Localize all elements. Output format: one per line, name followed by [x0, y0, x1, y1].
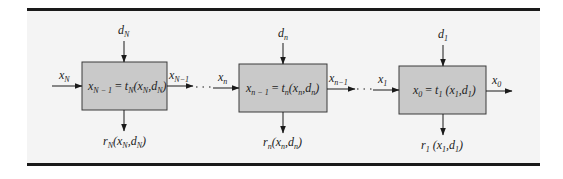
stage-n-decision-label: dn — [278, 26, 288, 42]
stage-diagram: xN − 1 = tN(xN,dN) xN dN xN−1 rN(xN,dN) … — [0, 0, 563, 179]
stage-1-return-label: r1 (x1,d1) — [421, 138, 463, 154]
stage-n: xn − 1 = tn(xn,dn) xn dn xn−1 rn(xn,dn) — [213, 26, 355, 151]
stage-n-output-label: xn−1 — [328, 71, 348, 87]
stage-N-input-label: xN — [58, 68, 70, 84]
stage-N-decision-label: dN — [118, 23, 130, 39]
stage-n-input-label: xn — [217, 70, 227, 86]
stage-N-return-label: rN(xN,dN) — [103, 134, 146, 150]
stage-1-input-label: x1 — [377, 72, 387, 88]
stage-N-output-label: xN−1 — [168, 68, 189, 84]
stage-1-output-label: x0 — [491, 73, 501, 89]
stage-n-return-label: rn(xn,dn) — [263, 135, 302, 151]
stage-1: x0 = t1 (x1,d1) x1 d1 x0 r1 (x1,d1) — [373, 27, 512, 154]
stage-1-decision-label: d1 — [438, 27, 448, 43]
stage-1-equation: x0 = t1 (x1,d1) — [412, 83, 476, 99]
stage-N: xN − 1 = tN(xN,dN) xN dN xN−1 rN(xN,dN) — [52, 23, 193, 150]
